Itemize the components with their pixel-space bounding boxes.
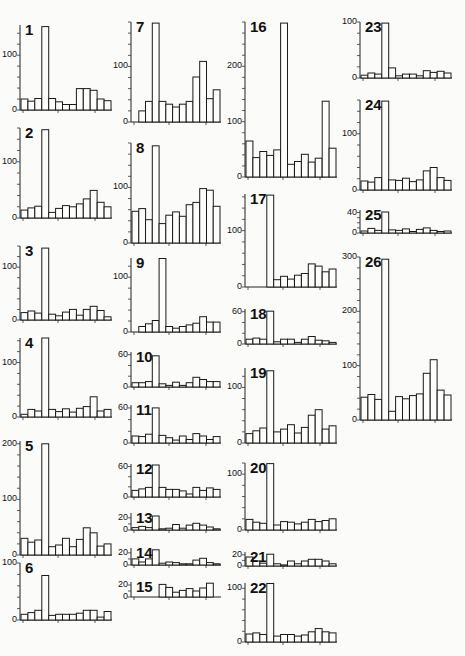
histogram-bar (90, 190, 97, 218)
histogram-bar (166, 215, 173, 243)
histogram-bar (301, 339, 308, 344)
histogram-bar (295, 433, 302, 443)
histogram-bar (21, 313, 28, 320)
y-tick-label: 100 (220, 382, 242, 391)
histogram-bar (35, 313, 42, 320)
y-tick-label: 0 (220, 438, 242, 447)
y-tick-label: 0 (220, 339, 242, 348)
panel-number: 7 (136, 19, 144, 34)
histogram-bar (193, 434, 200, 443)
histogram-bar (166, 385, 173, 387)
histogram-bar (97, 546, 104, 555)
histogram-bar (329, 633, 336, 642)
histogram-bar (361, 397, 368, 420)
histogram-bar (90, 397, 97, 417)
histogram-bar (301, 154, 308, 177)
y-tick-label: 60 (220, 307, 242, 316)
histogram-panel-19: 010019 (245, 368, 337, 443)
histogram-bar (42, 576, 49, 621)
histogram-bar (267, 155, 274, 177)
y-tick-label: 100 (106, 272, 128, 281)
histogram-bar (56, 412, 63, 417)
histogram-bar (186, 383, 193, 387)
histogram-bar (152, 23, 159, 122)
histogram-bar (301, 427, 308, 443)
histogram-bar (260, 523, 267, 530)
histogram-bar (213, 564, 220, 565)
histogram-bar (430, 72, 437, 78)
histogram-bar (70, 412, 77, 417)
histogram-bar (200, 189, 207, 243)
histogram-plot (20, 25, 112, 114)
histogram-bar (90, 90, 97, 110)
histogram-bar (213, 90, 220, 122)
histogram-bar (361, 231, 368, 233)
histogram-panel-13: 02013 (131, 513, 221, 530)
histogram-bar (21, 614, 28, 620)
histogram-bar (193, 591, 200, 597)
histogram-bar (159, 435, 166, 443)
histogram-panel-17: 010017 (245, 194, 337, 287)
histogram-bar (63, 312, 70, 320)
histogram-bar (193, 377, 200, 387)
histogram-bar (186, 101, 193, 122)
histogram-bar (173, 440, 180, 443)
histogram-bar (396, 76, 403, 78)
histogram-bar (139, 209, 146, 243)
y-tick-label: 20 (106, 513, 128, 522)
histogram-bar (146, 382, 153, 387)
histogram-bar (132, 211, 139, 243)
histogram-bar (430, 230, 437, 233)
histogram-bar (83, 610, 90, 620)
histogram-bar (173, 489, 180, 497)
histogram-bar (444, 73, 451, 78)
histogram-panel-26: 010020030026 (360, 257, 452, 420)
histogram-bar (42, 338, 49, 417)
y-tick-label: 100 (106, 61, 128, 70)
histogram-bar (179, 491, 186, 497)
histogram-bar (308, 519, 315, 530)
y-tick-label: 100 (0, 358, 17, 367)
histogram-bar (281, 522, 288, 530)
histogram-bar (207, 488, 214, 497)
histogram-bar (274, 636, 281, 642)
histogram-bar (213, 529, 220, 530)
y-tick-label: 0 (335, 185, 357, 194)
panel-number: 6 (25, 560, 33, 575)
histogram-bar (246, 634, 253, 642)
histogram-bar (146, 487, 153, 497)
histogram-bar (200, 436, 207, 443)
panel-number: 18 (250, 306, 267, 321)
histogram-bar (139, 383, 146, 387)
histogram-bar (207, 583, 214, 597)
y-tick-label: 0 (0, 412, 17, 421)
histogram-bar (166, 438, 173, 443)
histogram-plot (20, 563, 112, 624)
histogram-bar (97, 202, 104, 218)
histogram-plot (20, 128, 112, 222)
histogram-bar (207, 382, 214, 387)
histogram-bar (416, 394, 423, 420)
histogram-bar (28, 542, 35, 555)
histogram-bar (28, 101, 35, 110)
histogram-bar (97, 311, 104, 321)
histogram-bar (35, 610, 42, 620)
histogram-bar (267, 311, 274, 344)
histogram-bar (132, 383, 139, 387)
histogram-bar (193, 323, 200, 332)
histogram-panel-8: 01008 (131, 143, 221, 243)
histogram-bar (193, 560, 200, 565)
histogram-panel-10: 06010 (131, 352, 221, 387)
histogram-bar (21, 414, 28, 417)
histogram-panel-20: 010020 (245, 463, 337, 530)
histogram-bar (152, 321, 159, 333)
histogram-bar (281, 565, 288, 566)
histogram-bar (200, 588, 207, 597)
histogram-panel-5: 01002005 (20, 441, 112, 555)
y-tick-label: 0 (335, 415, 357, 424)
y-tick-label: 0 (220, 525, 242, 534)
histogram-bar (83, 309, 90, 320)
histogram-bar (382, 212, 389, 233)
y-tick-label: 0 (106, 592, 128, 601)
histogram-bar (301, 635, 308, 642)
